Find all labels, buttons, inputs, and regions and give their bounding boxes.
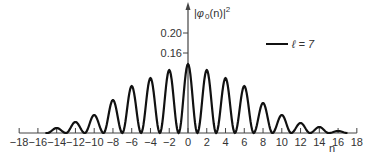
x-tick-label: −10	[85, 136, 104, 148]
y-tick-label: 0.16	[161, 47, 182, 59]
x-tick-label: −16	[29, 136, 48, 148]
x-axis-label: n	[329, 142, 335, 154]
x-tick-label: 4	[222, 136, 228, 148]
x-tick-label: −8	[107, 136, 120, 148]
ylabel-phi: φ	[197, 7, 204, 19]
x-tick-label: 10	[276, 136, 288, 148]
y-axis-label: |φ0(n)|2	[194, 5, 231, 21]
x-tick-label: −4	[144, 136, 157, 148]
x-tick-label: −12	[66, 136, 85, 148]
x-tick-label: 18	[351, 136, 363, 148]
data-series-l7	[45, 64, 347, 133]
x-tick-label: 0	[185, 136, 191, 148]
legend-label: ℓ = 7	[291, 38, 315, 50]
svg-text:|φ0(n)|2: |φ0(n)|2	[194, 5, 231, 21]
x-tick-label: 6	[241, 136, 247, 148]
x-tick-label: −14	[47, 136, 66, 148]
chart: −18−16−14−12−10−8−6−4−2024681012141618 0…	[0, 0, 368, 156]
x-tick-label: 2	[204, 136, 210, 148]
x-tick-label: 14	[313, 136, 325, 148]
x-tick-label: −6	[125, 136, 138, 148]
legend: ℓ = 7	[266, 38, 315, 50]
x-tick-label: −18	[10, 136, 29, 148]
x-tick-label: 8	[260, 136, 266, 148]
y-tick-label: 0.20	[161, 27, 182, 39]
x-tick-label: −2	[163, 136, 176, 148]
x-tick-label: 12	[294, 136, 306, 148]
